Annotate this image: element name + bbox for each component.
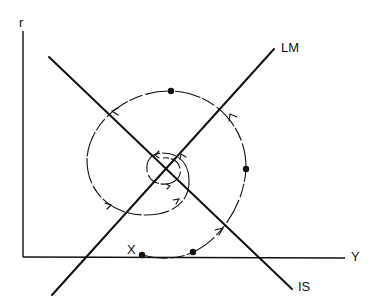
direction-arrows (105, 108, 237, 235)
point-marker (168, 88, 174, 94)
path-segment-upper-left (87, 91, 171, 158)
point-marker (139, 252, 145, 258)
path-segment-lower-left (87, 158, 189, 215)
arrow-icon (155, 151, 159, 158)
lm-curve-label: LM (281, 41, 299, 54)
path-segment-lower-right (193, 169, 246, 252)
arrow-icon (112, 108, 118, 115)
x-axis (23, 257, 345, 258)
is-curve-label: IS (298, 280, 310, 293)
arrow-icon (105, 203, 111, 209)
arrow-icon (215, 228, 223, 235)
point-marker (190, 249, 196, 255)
axes (23, 31, 345, 258)
path-segment-upper-right (171, 91, 246, 169)
is-lm-diagram (0, 0, 378, 308)
x-axis-label: Y (351, 250, 360, 263)
arrow-icon (166, 184, 170, 189)
arrow-icon (173, 199, 179, 204)
arrow-icon (180, 154, 186, 159)
point-marker (243, 166, 249, 172)
start-point-label: X (127, 243, 136, 256)
y-axis-label: r (19, 16, 23, 29)
